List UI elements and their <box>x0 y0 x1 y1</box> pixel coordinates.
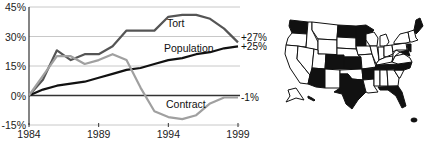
state-ms <box>374 70 380 86</box>
puerto-rico-dot <box>411 118 417 122</box>
state-ny <box>394 32 410 44</box>
state-nd <box>337 25 356 38</box>
y-tick-labels: 45%30%15%0%-15% <box>1 1 26 131</box>
y-tick-label-3: 0% <box>11 90 26 102</box>
end-label-population: +25% <box>241 41 267 52</box>
series-label-population: Population <box>164 42 214 54</box>
series-label-contract: Contract <box>166 98 206 110</box>
end-labels: +27%+25%-1% <box>241 32 267 103</box>
state-oh <box>384 45 393 57</box>
state-nm <box>325 69 340 88</box>
series-label-tort: Tort <box>167 17 185 29</box>
state-ak <box>286 88 304 102</box>
x-tick-label-2: 1994 <box>157 128 181 140</box>
end-label-contract: -1% <box>241 92 259 103</box>
state-wa <box>289 20 308 34</box>
gridlines <box>29 7 240 125</box>
y-tick-label-1: 30% <box>5 31 26 43</box>
x-tick-label-0: 1984 <box>17 128 41 140</box>
x-tick-labels: 1984198919941999 <box>17 128 250 140</box>
series-line-contract <box>29 54 238 119</box>
state-hi <box>308 96 315 101</box>
us-states-map <box>282 12 426 137</box>
axes <box>29 7 240 127</box>
state-ia <box>356 46 372 55</box>
line-chart: 45%30%15%0%-15% 1984198919941999 Tort Po… <box>0 0 280 145</box>
state-me <box>414 18 423 34</box>
state-co <box>325 54 344 69</box>
y-tick-label-0: 45% <box>5 1 26 13</box>
state-wy <box>318 39 337 55</box>
y-tick-label-2: 15% <box>5 60 26 72</box>
state-ks <box>344 57 362 69</box>
x-tick-label-1: 1989 <box>87 128 111 140</box>
state-fl <box>378 86 406 108</box>
state-wi <box>366 32 378 46</box>
x-tick-label-3: 1999 <box>226 128 250 140</box>
state-mi <box>380 34 389 46</box>
series-lines <box>29 15 238 119</box>
state-ar <box>362 68 374 80</box>
state-sd <box>337 37 356 49</box>
